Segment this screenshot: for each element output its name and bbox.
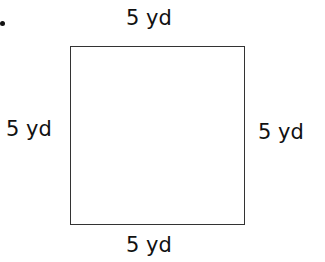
right-side-label: 5 yd (258, 120, 304, 144)
left-side-label: 5 yd (6, 117, 52, 141)
top-side-label: 5 yd (126, 6, 172, 30)
square-shape (70, 46, 245, 225)
bullet-marker (0, 21, 5, 26)
bottom-side-label: 5 yd (126, 233, 172, 257)
